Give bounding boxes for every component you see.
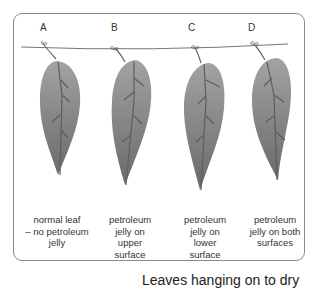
leaf-a-letter: A [40,22,47,33]
leaf-d-letter: D [248,22,255,33]
leaf-b-caption: petroleum jelly on upper surface [95,214,165,260]
leaf-c-caption: petroleum jelly on lower surface [170,214,240,260]
leaf-a-icon [40,42,80,175]
leaf-c-icon [184,46,225,190]
leaf-b-letter: B [111,22,118,33]
diagram-title: Leaves hanging on to dry [142,272,299,288]
leaf-b-icon [111,47,152,185]
leaf-a-caption: normal leaf – no petroleum jelly [22,214,92,249]
leaf-d-caption: petroleum jelly on both surfaces [240,214,310,249]
leaf-d-icon [251,42,291,180]
leaf-c-letter: C [188,22,195,33]
string-line [21,44,288,49]
